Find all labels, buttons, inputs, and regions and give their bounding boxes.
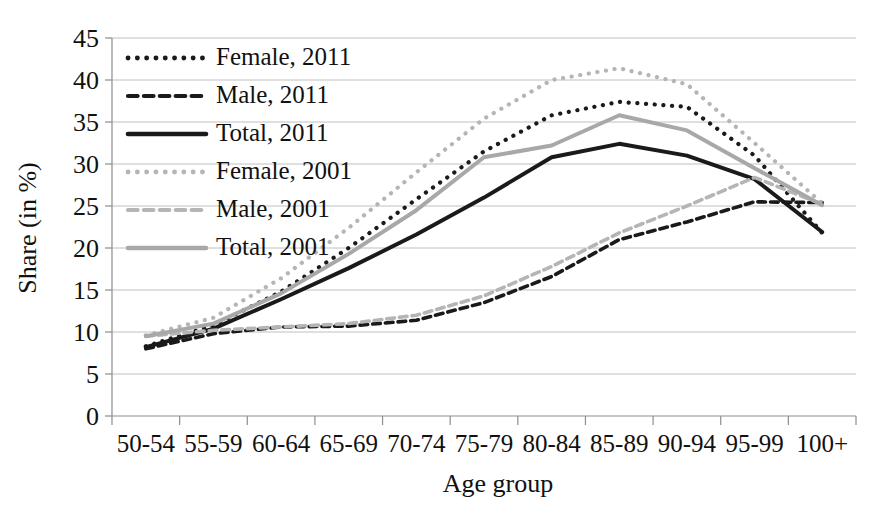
x-tick-label: 70-74 — [387, 430, 446, 457]
x-tick-label: 65-69 — [320, 430, 378, 457]
legend-label: Total, 2011 — [216, 119, 329, 146]
y-axis-ticks — [105, 38, 112, 416]
x-axis-title: Age group — [443, 469, 553, 498]
x-tick-label: 50-54 — [117, 430, 176, 457]
y-tick-label: 10 — [73, 318, 99, 347]
chart-canvas: 051015202530354045 50-5455-5960-6465-697… — [0, 0, 891, 521]
x-tick-label: 75-79 — [455, 430, 513, 457]
x-tick-label: 95-99 — [725, 430, 783, 457]
x-axis-tick-labels: 50-5455-5960-6465-6970-7475-7980-8485-89… — [117, 430, 848, 457]
line-chart: 051015202530354045 50-5455-5960-6465-697… — [0, 0, 891, 521]
y-tick-label: 0 — [86, 402, 99, 431]
legend-label: Male, 2001 — [216, 195, 330, 222]
y-axis-tick-labels: 051015202530354045 — [73, 24, 99, 431]
legend-label: Female, 2011 — [216, 43, 351, 70]
series-line-male-2011 — [146, 202, 822, 349]
chart-legend: Female, 2011Male, 2011Total, 2011Female,… — [128, 43, 352, 260]
x-axis-ticks — [112, 416, 856, 425]
y-axis-title: Share (in %) — [13, 162, 42, 293]
y-tick-label: 30 — [73, 150, 99, 179]
legend-label: Female, 2001 — [216, 157, 352, 184]
y-tick-label: 45 — [73, 24, 99, 53]
legend-label: Total, 2001 — [216, 233, 330, 260]
legend-label: Male, 2011 — [216, 81, 329, 108]
y-tick-label: 15 — [73, 276, 99, 305]
x-tick-label: 60-64 — [252, 430, 311, 457]
x-tick-label: 80-84 — [522, 430, 581, 457]
x-tick-label: 100+ — [796, 430, 848, 457]
y-tick-label: 5 — [86, 360, 99, 389]
y-tick-label: 20 — [73, 234, 99, 263]
x-tick-label: 85-89 — [590, 430, 648, 457]
y-tick-label: 35 — [73, 108, 99, 137]
x-tick-label: 55-59 — [184, 430, 242, 457]
y-tick-label: 25 — [73, 192, 99, 221]
x-tick-label: 90-94 — [658, 430, 717, 457]
y-tick-label: 40 — [73, 66, 99, 95]
